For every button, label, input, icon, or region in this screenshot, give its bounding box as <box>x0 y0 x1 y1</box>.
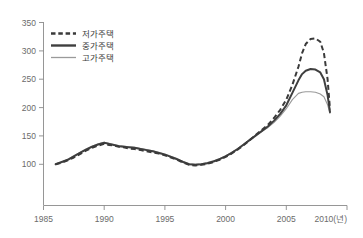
x-tick-label: 1985 <box>34 214 53 224</box>
chart-canvas: 350 300 250 200 150 100 1985 1990 1995 2… <box>0 0 363 238</box>
x-tick-label: 2000 <box>216 214 235 224</box>
legend: 저가주택 중가주택 고가주택 <box>51 29 114 63</box>
x-axis-ticks <box>44 206 348 211</box>
y-tick-label: 350 <box>22 18 36 28</box>
x-tick-label: 1995 <box>155 214 174 224</box>
x-axis-unit-label: 2010(년) <box>314 214 347 224</box>
legend-label-low-price: 저가주택 <box>82 29 114 39</box>
y-tick-label: 150 <box>22 131 36 141</box>
series-line-high-price <box>56 92 330 165</box>
legend-label-mid-price: 중가주택 <box>82 41 114 51</box>
y-tick-label: 250 <box>22 74 36 84</box>
housing-price-index-line-chart: 350 300 250 200 150 100 1985 1990 1995 2… <box>0 0 363 238</box>
x-axis-tick-labels: 1985 1990 1995 2000 2005 2010(년) <box>34 214 347 224</box>
y-tick-label: 100 <box>22 159 36 169</box>
x-tick-label: 1990 <box>95 214 114 224</box>
legend-label-high-price: 고가주택 <box>82 53 114 63</box>
series-line-mid-price <box>56 69 330 165</box>
x-tick-label: 2005 <box>277 214 296 224</box>
y-tick-label: 200 <box>22 103 36 113</box>
y-axis-ticks <box>39 23 44 165</box>
y-tick-label: 300 <box>22 46 36 56</box>
y-axis-tick-labels: 350 300 250 200 150 100 <box>22 18 36 170</box>
